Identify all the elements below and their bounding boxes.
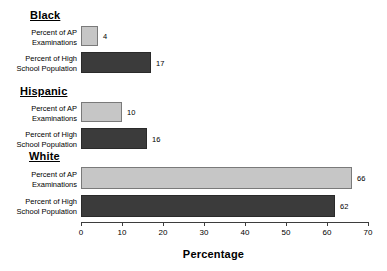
row-label-line1: Percent of High <box>0 54 77 64</box>
x-axis-tick-40 <box>245 222 246 226</box>
x-axis-tick-label-10: 10 <box>107 228 137 238</box>
x-axis-line <box>81 222 368 223</box>
bar-value-black-ap: 4 <box>103 32 107 41</box>
x-axis-tick-label-0: 0 <box>66 228 96 238</box>
row-label-line2: School Population <box>0 207 77 217</box>
bar-value-white-ap: 66 <box>357 174 365 183</box>
row-label-line2: School Population <box>0 64 77 74</box>
group-heading-white: White <box>29 150 60 162</box>
bar-value-hispanic-ap: 10 <box>127 108 135 117</box>
x-axis-tick-50 <box>286 222 287 226</box>
x-axis-tick-label-70: 70 <box>353 228 383 238</box>
row-label-line1: Percent of High <box>0 130 77 140</box>
bar-white-ap <box>81 167 352 189</box>
bar-white-pop <box>81 195 335 217</box>
row-label-white-pop: Percent of High School Population <box>0 197 81 216</box>
x-axis-tick-30 <box>204 222 205 226</box>
x-axis-tick-label-40: 40 <box>230 228 260 238</box>
bar-black-ap <box>81 26 98 46</box>
x-axis-tick-label-20: 20 <box>148 228 178 238</box>
bar-value-black-pop: 17 <box>156 59 164 68</box>
row-label-line2: School Population <box>0 140 77 150</box>
group-heading-black: Black <box>30 9 60 21</box>
x-axis-tick-70 <box>368 222 369 226</box>
row-label-line2: Examinations <box>0 38 77 48</box>
x-axis-tick-label-30: 30 <box>189 228 219 238</box>
row-label-line1: Percent of AP <box>0 170 77 180</box>
row-label-black-ap: Percent of AP Examinations <box>0 28 81 47</box>
horizontal-bar-chart: Black Percent of AP Examinations 4 Perce… <box>0 0 387 271</box>
row-label-line1: Percent of AP <box>0 104 77 114</box>
row-label-line1: Percent of AP <box>0 28 77 38</box>
row-label-hispanic-ap: Percent of AP Examinations <box>0 104 81 123</box>
x-axis-title: Percentage <box>0 248 387 260</box>
bar-value-hispanic-pop: 16 <box>152 135 160 144</box>
row-label-line1: Percent of High <box>0 197 77 207</box>
row-label-line2: Examinations <box>0 114 77 124</box>
row-label-white-ap: Percent of AP Examinations <box>0 170 81 189</box>
x-axis-tick-60 <box>327 222 328 226</box>
x-axis-tick-label-60: 60 <box>312 228 342 238</box>
x-axis-tick-0 <box>81 222 82 226</box>
bar-hispanic-ap <box>81 102 122 122</box>
x-axis-tick-20 <box>163 222 164 226</box>
bar-black-pop <box>81 52 151 73</box>
bar-hispanic-pop <box>81 128 147 149</box>
x-axis-tick-10 <box>122 222 123 226</box>
bar-value-white-pop: 62 <box>340 202 348 211</box>
x-axis-tick-label-50: 50 <box>271 228 301 238</box>
row-label-line2: Examinations <box>0 180 77 190</box>
row-label-hispanic-pop: Percent of High School Population <box>0 130 81 149</box>
row-label-black-pop: Percent of High School Population <box>0 54 81 73</box>
group-heading-hispanic: Hispanic <box>20 85 67 97</box>
